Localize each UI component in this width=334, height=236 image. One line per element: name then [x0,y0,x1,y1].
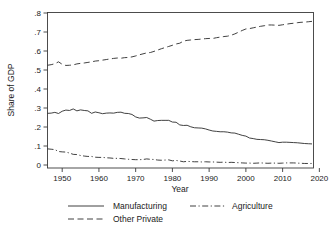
y-tick-label: 0 [37,161,42,170]
y-tick-label: .6 [34,47,41,56]
legend-label-other-private: Other Private [113,214,163,224]
x-axis-ticks: 19501960197019801990200020102020 [53,168,329,183]
y-tick-label: .2 [34,123,41,132]
x-tick-label: 2000 [237,174,255,183]
x-tick-label: 2010 [274,174,292,183]
y-tick-label: .8 [34,9,41,18]
x-tick-label: 1950 [53,174,71,183]
y-axis-title: Share of GDP [6,63,16,116]
chart-figure: 0.1.2.3.4.5.6.7.8 1950196019701980199020… [0,0,334,236]
y-tick-label: .5 [34,66,41,75]
x-tick-label: 2020 [310,174,328,183]
legend-label-agriculture: Agriculture [232,201,273,211]
series-line-manufacturing [48,109,313,144]
x-tick-label: 1970 [127,174,145,183]
x-axis-title: Year [171,184,188,194]
series-line-other-private [48,21,313,65]
legend-label-manufacturing: Manufacturing [113,201,167,211]
y-tick-label: .7 [34,28,41,37]
series-line-agriculture [48,149,313,164]
plot-frame [48,13,314,169]
x-tick-label: 1980 [164,174,182,183]
x-tick-label: 1990 [200,174,218,183]
y-tick-label: .3 [34,104,41,113]
chart-legend: ManufacturingAgricultureOther Private [68,201,273,224]
chart-svg: 0.1.2.3.4.5.6.7.8 1950196019701980199020… [0,0,334,236]
data-series-group [48,21,313,163]
y-tick-label: .4 [34,85,41,94]
y-tick-label: .1 [34,142,41,151]
y-axis-ticks: 0.1.2.3.4.5.6.7.8 [34,9,47,170]
x-tick-label: 1960 [90,174,108,183]
